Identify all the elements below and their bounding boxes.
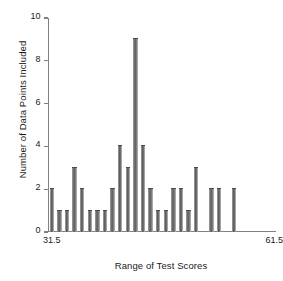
bar — [148, 188, 152, 232]
bar — [80, 188, 84, 232]
x-axis-end-label: 61.5 — [265, 235, 283, 245]
bar — [50, 188, 54, 232]
bar — [103, 210, 107, 232]
y-tick-label: 0 — [35, 225, 40, 235]
bar — [65, 210, 69, 232]
y-tick-label: 4 — [35, 139, 40, 149]
bar — [133, 38, 137, 232]
bar — [232, 188, 236, 232]
bar — [164, 210, 168, 232]
bar-series — [48, 18, 276, 232]
bar — [88, 210, 92, 232]
y-tick-label: 2 — [35, 182, 40, 192]
bar — [217, 188, 221, 232]
bar — [72, 167, 76, 232]
bar — [156, 210, 160, 232]
bar — [110, 188, 114, 232]
bar — [141, 145, 145, 232]
bar — [126, 167, 130, 232]
x-axis-title: Range of Test Scores — [42, 260, 280, 271]
bar — [57, 210, 61, 232]
y-tick-label: 10 — [30, 11, 40, 21]
bar — [171, 188, 175, 232]
x-axis-start-label: 31.5 — [43, 235, 61, 245]
y-tick-label: 8 — [35, 54, 40, 64]
bar — [179, 188, 183, 232]
bar — [95, 210, 99, 232]
bar — [209, 188, 213, 232]
y-tick-label: 6 — [35, 97, 40, 107]
plot-area: 0246810 31.5 61.5 — [48, 18, 276, 232]
bar — [118, 145, 122, 232]
y-axis-title: Number of Data Points Included — [17, 10, 28, 210]
histogram-figure: Number of Data Points Included 0246810 3… — [0, 0, 283, 281]
bar — [186, 210, 190, 232]
bar — [194, 167, 198, 232]
